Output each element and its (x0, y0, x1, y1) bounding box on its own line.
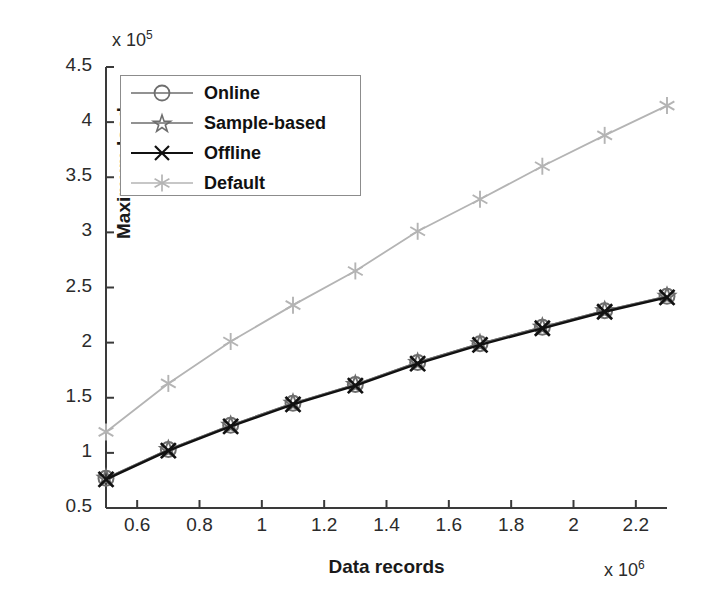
y-tick-label: 3.5 (46, 164, 92, 186)
series-online (99, 289, 675, 486)
y-tick-label: 3 (46, 219, 92, 241)
x-tick-label: 2 (544, 514, 604, 536)
legend-label-sample-based: Sample-based (204, 113, 326, 134)
legend-label-offline: Offline (204, 143, 261, 164)
legend-label-default: Default (204, 173, 265, 194)
y-tick-label: 1.5 (46, 385, 92, 407)
y-tick-label: 2 (46, 330, 92, 352)
y-tick-label: 2.5 (46, 275, 92, 297)
asterisk-marker-icon (129, 172, 195, 194)
chart-legend: Online Sample-based Offline (120, 75, 361, 196)
x-tick-label: 1 (232, 514, 292, 536)
legend-label-online: Online (204, 83, 260, 104)
legend-item-default[interactable]: Default (129, 168, 265, 198)
series-offline (99, 290, 675, 487)
y-exponent-power: 5 (146, 28, 153, 42)
x-tick-label: 2.2 (606, 514, 666, 536)
x-tick-label: 1.2 (294, 514, 354, 536)
legend-item-offline[interactable]: Offline (129, 138, 261, 168)
chart-figure: x 105 x 106 Maximum load Data records 0.… (0, 0, 707, 603)
x-tick-label: 1.4 (357, 514, 417, 536)
y-tick-label: 1 (46, 440, 92, 462)
y-tick-label: 4 (46, 109, 92, 131)
x-tick-label: 0.6 (107, 514, 167, 536)
x-marker-icon (129, 142, 195, 164)
legend-item-online[interactable]: Online (129, 78, 260, 108)
x-tick-label: 0.8 (170, 514, 230, 536)
series-sample-based (98, 288, 675, 485)
y-tick-label: 0.5 (46, 495, 92, 517)
x-tick-label: 1.8 (481, 514, 541, 536)
x-tick-label: 1.6 (419, 514, 479, 536)
x-axis-title: Data records (106, 556, 667, 578)
circle-marker-icon (129, 82, 195, 104)
y-tick-label: 4.5 (46, 54, 92, 76)
legend-item-sample-based[interactable]: Sample-based (129, 108, 326, 138)
star-marker-icon (129, 112, 195, 134)
